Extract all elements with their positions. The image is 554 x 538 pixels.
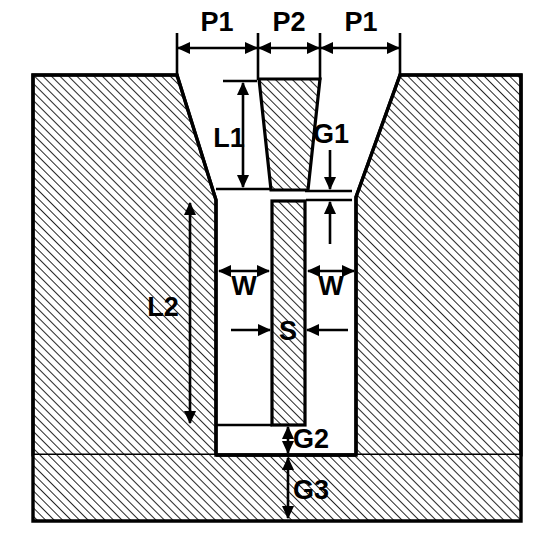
label-w-right: W <box>318 271 344 301</box>
diagram-root: P1 P2 P1 L1 G1 L2 <box>0 0 554 538</box>
left-block-shape <box>33 75 216 455</box>
label-s: S <box>279 316 297 346</box>
g1-dimension-group: G1 <box>305 119 352 244</box>
label-g2: G2 <box>293 424 329 454</box>
label-g3: G3 <box>293 475 329 505</box>
label-p2: P2 <box>272 7 305 37</box>
center-vertical-bar <box>272 201 305 425</box>
center-vertical-bar-group <box>272 201 305 425</box>
label-l2: L2 <box>147 292 179 322</box>
technical-cross-section-drawing: P1 P2 P1 L1 G1 L2 <box>0 0 554 538</box>
top-dimension-row: P1 P2 P1 <box>177 7 400 80</box>
g2-dimension-group: G2 <box>216 424 329 454</box>
label-l1: L1 <box>213 123 245 153</box>
base-slab-shape <box>33 455 521 521</box>
center-tapered-post-group <box>259 79 320 190</box>
label-p1-right: P1 <box>344 7 377 37</box>
label-w-left: W <box>231 271 257 301</box>
s-dimension-group: S <box>231 316 348 346</box>
label-g1: G1 <box>313 119 349 149</box>
label-p1-left: P1 <box>200 7 233 37</box>
center-tapered-post <box>259 79 320 190</box>
